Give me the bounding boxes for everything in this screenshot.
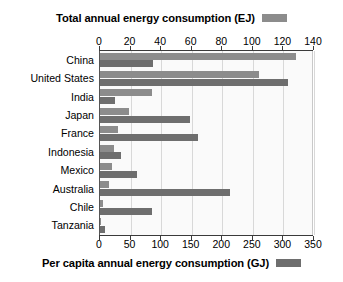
chart-row	[100, 143, 313, 161]
axis-tick-mark	[252, 46, 253, 50]
chart-row	[100, 180, 313, 198]
category-axis-labels: ChinaUnited StatesIndiaJapanFranceIndone…	[0, 51, 94, 235]
category-label: India	[0, 91, 94, 103]
bar-total-energy	[100, 71, 259, 78]
bar-per-capita-energy	[100, 134, 198, 141]
bar-total-energy	[100, 163, 112, 170]
axis-tick-mark	[99, 236, 100, 240]
gridline	[314, 51, 315, 235]
top-legend: Total annual energy consumption (EJ)	[0, 12, 343, 24]
per-capita-legend-swatch	[276, 259, 301, 267]
bottom-axis-line	[99, 235, 313, 236]
chart-row	[100, 51, 313, 69]
bar-per-capita-energy	[100, 60, 153, 67]
category-label: United States	[0, 72, 94, 84]
energy-consumption-chart: Total annual energy consumption (EJ) 020…	[0, 0, 343, 282]
chart-row	[100, 125, 313, 143]
bottom-legend-title: Per capita annual energy consumption (GJ…	[42, 257, 269, 269]
bottom-legend: Per capita annual energy consumption (GJ…	[0, 257, 343, 269]
axis-tick-mark	[99, 46, 100, 50]
bar-per-capita-energy	[100, 171, 137, 178]
axis-tick-mark	[252, 236, 253, 240]
bar-total-energy	[100, 181, 109, 188]
axis-tick-mark	[282, 236, 283, 240]
axis-tick-mark	[130, 236, 131, 240]
bar-total-energy	[100, 126, 118, 133]
bottom-axis-tick-labels: 050100150200250300350	[99, 238, 313, 251]
bar-total-energy	[100, 200, 103, 207]
chart-row	[100, 106, 313, 124]
plot-area	[99, 51, 313, 235]
axis-tick-mark	[221, 236, 222, 240]
chart-row	[100, 198, 313, 216]
category-label: France	[0, 127, 94, 139]
bar-total-energy	[100, 89, 152, 96]
category-label: Chile	[0, 201, 94, 213]
bar-total-energy	[100, 218, 101, 225]
bar-per-capita-energy	[100, 79, 288, 86]
chart-row	[100, 69, 313, 87]
axis-tick-mark	[160, 46, 161, 50]
chart-row	[100, 161, 313, 179]
bar-per-capita-energy	[100, 97, 115, 104]
category-label: Mexico	[0, 164, 94, 176]
axis-tick-mark	[191, 236, 192, 240]
bar-per-capita-energy	[100, 208, 152, 215]
total-energy-legend-swatch	[262, 14, 287, 22]
category-label: Australia	[0, 183, 94, 195]
chart-row	[100, 88, 313, 106]
bar-per-capita-energy	[100, 116, 190, 123]
top-axis-tick-labels: 020406080100120140	[99, 35, 313, 48]
bar-total-energy	[100, 108, 129, 115]
top-legend-title: Total annual energy consumption (EJ)	[56, 12, 255, 24]
axis-tick-mark	[130, 46, 131, 50]
axis-tick-mark	[282, 46, 283, 50]
category-label: Indonesia	[0, 146, 94, 158]
bar-per-capita-energy	[100, 226, 105, 233]
axis-tick-mark	[191, 46, 192, 50]
bar-per-capita-energy	[100, 189, 230, 196]
category-label: China	[0, 54, 94, 66]
axis-tick-mark	[313, 236, 314, 240]
chart-row	[100, 217, 313, 235]
category-label: Tanzania	[0, 219, 94, 231]
axis-tick-mark	[313, 46, 314, 50]
bar-per-capita-energy	[100, 152, 121, 159]
bar-total-energy	[100, 53, 296, 60]
category-label: Japan	[0, 109, 94, 121]
axis-tick-mark	[221, 46, 222, 50]
axis-tick-mark	[160, 236, 161, 240]
bar-total-energy	[100, 145, 114, 152]
